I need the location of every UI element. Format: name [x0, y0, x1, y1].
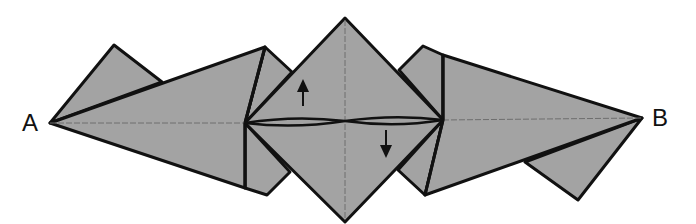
right-kite [425, 55, 642, 195]
left-kite [50, 47, 265, 188]
point-label-b: B [652, 106, 668, 130]
point-label-a: A [22, 111, 38, 135]
origami-diagram [0, 0, 696, 224]
